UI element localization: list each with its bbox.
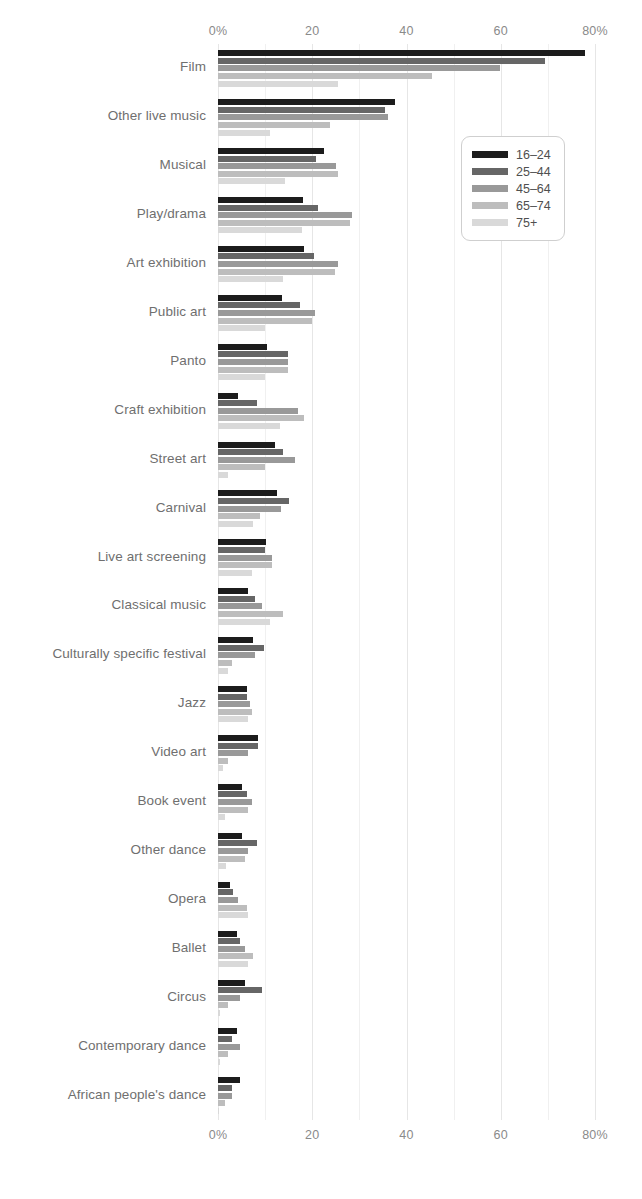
bar-2544 <box>218 547 265 553</box>
bar-75+ <box>218 521 253 527</box>
grouped-bar-chart: 0% 20 40 60 80% FilmOther live musicMusi… <box>0 0 642 1199</box>
gridline <box>595 44 596 1120</box>
bar-4564 <box>218 506 281 512</box>
chart-category-row: Craft exhibition <box>218 386 595 435</box>
bar-2544 <box>218 938 240 944</box>
category-label: Other dance <box>131 842 206 857</box>
bar-2544 <box>218 156 316 162</box>
bar-75+ <box>218 472 228 478</box>
bar-6574 <box>218 709 252 715</box>
bar-1624 <box>218 246 304 252</box>
bar-4564 <box>218 750 248 756</box>
legend-swatch-65-74 <box>472 202 508 209</box>
legend-item[interactable]: 25–44 <box>472 163 554 180</box>
bar-1624 <box>218 148 324 154</box>
bar-6574 <box>218 269 335 275</box>
legend-swatch-16-24 <box>472 151 508 158</box>
bar-1624 <box>218 588 248 594</box>
bar-6574 <box>218 807 248 813</box>
bar-2544 <box>218 645 264 651</box>
bar-75+ <box>218 814 225 820</box>
bar-6574 <box>218 660 232 666</box>
bar-1624 <box>218 931 237 937</box>
bar-2544 <box>218 987 262 993</box>
bar-75+ <box>218 81 338 87</box>
category-label: Carnival <box>156 500 206 515</box>
bar-75+ <box>218 619 270 625</box>
bar-6574 <box>218 318 312 324</box>
category-label: Play/drama <box>137 206 206 221</box>
chart-category-row: Opera <box>218 875 595 924</box>
bar-6574 <box>218 953 253 959</box>
bar-2544 <box>218 58 545 64</box>
bar-6574 <box>218 73 432 79</box>
bar-1624 <box>218 784 242 790</box>
category-label: Film <box>180 59 206 74</box>
bar-2544 <box>218 449 283 455</box>
bar-1624 <box>218 735 258 741</box>
bar-6574 <box>218 1100 225 1106</box>
category-label: Street art <box>149 451 206 466</box>
chart-category-row: Panto <box>218 337 595 386</box>
bar-1624 <box>218 980 245 986</box>
category-label: Live art screening <box>98 549 206 564</box>
legend-label: 65–74 <box>516 199 551 213</box>
bar-4564 <box>218 163 336 169</box>
x-axis-bottom: 0% 20 40 60 80% <box>218 1128 595 1129</box>
bar-4564 <box>218 701 250 707</box>
legend-item[interactable]: 65–74 <box>472 197 554 214</box>
chart-category-row: Jazz <box>218 680 595 729</box>
bar-75+ <box>218 961 248 967</box>
bar-75+ <box>218 912 248 918</box>
bar-2544 <box>218 889 233 895</box>
bar-75+ <box>218 716 248 722</box>
bar-4564 <box>218 310 315 316</box>
x-axis-top: 0% 20 40 60 80% <box>218 24 595 25</box>
bar-75+ <box>218 227 302 233</box>
bar-1624 <box>218 686 247 692</box>
legend-item[interactable]: 45–64 <box>472 180 554 197</box>
category-label: Opera <box>168 891 206 906</box>
bar-4564 <box>218 1093 232 1099</box>
bar-6574 <box>218 856 245 862</box>
bar-1624 <box>218 393 238 399</box>
bar-4564 <box>218 799 252 805</box>
legend-swatch-75plus <box>472 219 508 226</box>
bar-75+ <box>218 668 228 674</box>
category-label: Contemporary dance <box>78 1038 206 1053</box>
bar-1624 <box>218 1028 237 1034</box>
bar-75+ <box>218 325 265 331</box>
legend-swatch-25-44 <box>472 168 508 175</box>
chart-category-row: Art exhibition <box>218 240 595 289</box>
bar-2544 <box>218 400 257 406</box>
bar-1624 <box>218 637 253 643</box>
bar-6574 <box>218 562 272 568</box>
chart-category-row: Video art <box>218 729 595 778</box>
bar-4564 <box>218 848 248 854</box>
bar-4564 <box>218 408 298 414</box>
bar-1624 <box>218 197 303 203</box>
x-tick-label: 60 <box>494 24 508 38</box>
category-label: Art exhibition <box>127 255 206 270</box>
bar-1624 <box>218 539 266 545</box>
bar-75+ <box>218 863 226 869</box>
x-tick-label: 0% <box>209 1128 227 1142</box>
bar-4564 <box>218 995 240 1001</box>
legend-item[interactable]: 75+ <box>472 214 554 231</box>
category-label: Jazz <box>178 695 206 710</box>
bar-2544 <box>218 302 300 308</box>
bar-75+ <box>218 178 285 184</box>
bar-6574 <box>218 905 247 911</box>
bar-1624 <box>218 50 585 56</box>
category-label: Panto <box>170 353 206 368</box>
legend-item[interactable]: 16–24 <box>472 146 554 163</box>
category-label: Other live music <box>108 108 206 123</box>
bar-6574 <box>218 611 283 617</box>
category-label: Video art <box>151 744 206 759</box>
chart-category-row: Culturally specific festival <box>218 631 595 680</box>
bar-2544 <box>218 351 288 357</box>
chart-category-row: Street art <box>218 435 595 484</box>
bar-4564 <box>218 212 352 218</box>
bar-6574 <box>218 513 260 519</box>
x-tick-label: 20 <box>305 24 319 38</box>
